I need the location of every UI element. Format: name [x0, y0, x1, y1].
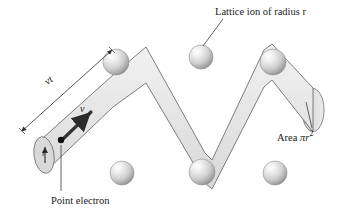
- lattice-ion-top-mid: [189, 45, 213, 69]
- label-radius-r: r: [42, 148, 46, 158]
- point-electron-dot: [58, 137, 64, 143]
- figure-canvas: [0, 0, 344, 217]
- label-area-symbol: πr: [300, 132, 309, 143]
- label-point-electron: Point electron: [51, 195, 110, 206]
- label-area: Area πr2: [277, 129, 313, 143]
- leader-line-lattice-ion: [203, 19, 223, 46]
- lattice-ion-top-right: [260, 49, 286, 75]
- lattice-ion-bottom-mid: [189, 159, 215, 185]
- lattice-ion-bottom-right: [263, 161, 287, 185]
- label-lattice-ion: Lattice ion of radius r: [215, 6, 306, 17]
- lattice-ion-top-left: [103, 49, 129, 75]
- physics-figure-mean-free-path: Lattice ion of radius r Area πr2 Point e…: [0, 0, 344, 217]
- lattice-ion-bottom-left: [110, 161, 134, 185]
- label-area-exponent: 2: [309, 129, 313, 138]
- label-velocity-v: v: [80, 103, 84, 114]
